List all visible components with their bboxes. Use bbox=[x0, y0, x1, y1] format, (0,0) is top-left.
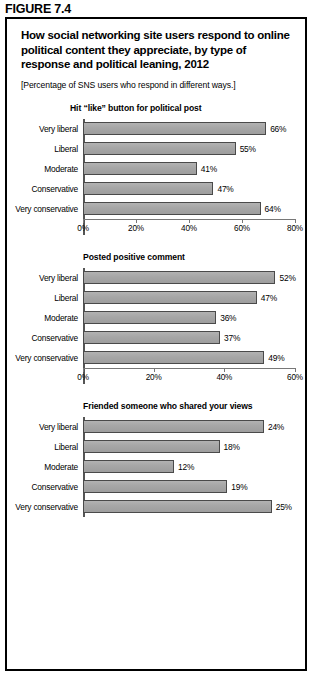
bar-value-label: 12% bbox=[178, 462, 194, 472]
x-axis-tick bbox=[189, 219, 190, 223]
chart-title: Friended someone who shared your views bbox=[7, 401, 305, 411]
x-axis-tick-label: 60% bbox=[287, 373, 303, 382]
table-row: Moderate 12% bbox=[7, 457, 305, 477]
bar-container: 41% bbox=[83, 159, 305, 179]
category-label: Moderate bbox=[7, 164, 83, 174]
figure-subtitle: [Percentage of SNS users who respond in … bbox=[7, 72, 305, 91]
category-label: Liberal bbox=[7, 293, 83, 303]
chart-friended-someone: Friended someone who shared your views V… bbox=[7, 401, 305, 517]
bar-value-label: 19% bbox=[231, 482, 247, 492]
x-axis-tick-label: 0% bbox=[77, 373, 88, 382]
table-row: Conservative 47% bbox=[7, 179, 305, 199]
bar-container: 36% bbox=[83, 308, 305, 328]
bar-container: 24% bbox=[83, 417, 305, 437]
table-row: Moderate 41% bbox=[7, 159, 305, 179]
x-axis-tick-label: 80% bbox=[287, 224, 303, 233]
table-row: Very conservative 64% bbox=[7, 199, 305, 219]
category-label: Conservative bbox=[7, 184, 83, 194]
bar-value-label: 25% bbox=[276, 502, 292, 512]
table-row: Conservative 37% bbox=[7, 328, 305, 348]
x-axis-tick bbox=[83, 368, 84, 372]
bar bbox=[83, 162, 197, 175]
bar-container: 25% bbox=[83, 497, 305, 517]
bar bbox=[83, 480, 227, 493]
bar bbox=[83, 351, 264, 364]
x-axis: 0% 20% 40% 60% bbox=[83, 368, 295, 384]
category-label: Moderate bbox=[7, 462, 83, 472]
x-axis-tick-label: 20% bbox=[128, 224, 144, 233]
bar-container: 49% bbox=[83, 348, 305, 368]
x-axis: 0% 20% 40% 60% 80% bbox=[83, 219, 295, 235]
plot-area: Very liberal 24% Liberal 18% Moderate 12… bbox=[7, 417, 305, 517]
chart-title: Hit “like” button for political post bbox=[7, 103, 305, 113]
bar-value-label: 18% bbox=[224, 442, 240, 452]
x-axis-tick-label: 20% bbox=[146, 373, 162, 382]
bar-container: 37% bbox=[83, 328, 305, 348]
bar-container: 64% bbox=[83, 199, 305, 219]
bar-container: 12% bbox=[83, 457, 305, 477]
bar-value-label: 64% bbox=[265, 204, 281, 214]
table-row: Very liberal 24% bbox=[7, 417, 305, 437]
x-axis-tick bbox=[295, 368, 296, 372]
bar-value-label: 37% bbox=[224, 333, 240, 343]
bar bbox=[83, 500, 272, 513]
bar-value-label: 52% bbox=[279, 273, 295, 283]
bar-value-label: 49% bbox=[268, 353, 284, 363]
table-row: Conservative 19% bbox=[7, 477, 305, 497]
table-row: Very conservative 25% bbox=[7, 497, 305, 517]
x-axis-tick-label: 40% bbox=[216, 373, 232, 382]
category-label: Liberal bbox=[7, 144, 83, 154]
bar bbox=[83, 460, 174, 473]
bar-value-label: 47% bbox=[261, 293, 277, 303]
table-row: Very conservative 49% bbox=[7, 348, 305, 368]
table-row: Very liberal 66% bbox=[7, 119, 305, 139]
x-axis-tick-label: 60% bbox=[234, 224, 250, 233]
category-label: Very liberal bbox=[7, 124, 83, 134]
bar bbox=[83, 202, 261, 215]
table-row: Very liberal 52% bbox=[7, 268, 305, 288]
table-row: Liberal 47% bbox=[7, 288, 305, 308]
bar bbox=[83, 440, 220, 453]
category-label: Very conservative bbox=[7, 353, 83, 363]
bar-value-label: 47% bbox=[217, 184, 233, 194]
table-row: Liberal 55% bbox=[7, 139, 305, 159]
bar-container: 19% bbox=[83, 477, 305, 497]
x-axis-tick bbox=[136, 219, 137, 223]
category-label: Conservative bbox=[7, 482, 83, 492]
bar-container: 18% bbox=[83, 437, 305, 457]
bar-container: 55% bbox=[83, 139, 305, 159]
bar-value-label: 55% bbox=[240, 144, 256, 154]
chart-posted-positive-comment: Posted positive comment Very liberal 52%… bbox=[7, 252, 305, 384]
bar bbox=[83, 271, 275, 284]
figure-label: FIGURE 7.4 bbox=[0, 0, 314, 18]
plot-area: Very liberal 66% Liberal 55% Moderate 41… bbox=[7, 119, 305, 235]
bar bbox=[83, 122, 266, 135]
figure-box: How social networking site users respond… bbox=[5, 17, 307, 671]
bar-value-label: 24% bbox=[268, 422, 284, 432]
x-axis-tick bbox=[295, 219, 296, 223]
bar-container: 52% bbox=[83, 268, 305, 288]
bar bbox=[83, 291, 257, 304]
bar bbox=[83, 311, 216, 324]
category-label: Very liberal bbox=[7, 273, 83, 283]
table-row: Liberal 18% bbox=[7, 437, 305, 457]
x-axis-tick-label: 40% bbox=[181, 224, 197, 233]
plot-area: Very liberal 52% Liberal 47% Moderate 36… bbox=[7, 268, 305, 384]
category-label: Liberal bbox=[7, 442, 83, 452]
bar bbox=[83, 182, 213, 195]
x-axis-tick-label: 0% bbox=[77, 224, 88, 233]
bar-container: 47% bbox=[83, 179, 305, 199]
bar bbox=[83, 331, 220, 344]
bar-value-label: 36% bbox=[220, 313, 236, 323]
figure-title: How social networking site users respond… bbox=[7, 19, 305, 72]
category-label: Conservative bbox=[7, 333, 83, 343]
x-axis-tick bbox=[154, 368, 155, 372]
table-row: Moderate 36% bbox=[7, 308, 305, 328]
bar bbox=[83, 420, 264, 433]
x-axis-tick bbox=[224, 368, 225, 372]
bar-value-label: 41% bbox=[201, 164, 217, 174]
x-axis-tick bbox=[242, 219, 243, 223]
bar bbox=[83, 142, 236, 155]
x-axis-line bbox=[83, 368, 295, 369]
bar-value-label: 66% bbox=[270, 124, 286, 134]
